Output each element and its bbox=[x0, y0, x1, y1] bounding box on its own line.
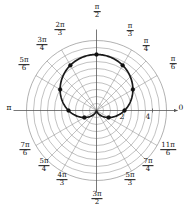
fraction-3pi-over-4: 3π4 bbox=[36, 37, 47, 53]
fraction-denominator: 3 bbox=[54, 31, 65, 38]
fraction-pi-over-6: π6 bbox=[170, 56, 177, 72]
fraction-3pi-over-2: 3π 2 bbox=[91, 191, 102, 207]
fraction-denominator: 6 bbox=[18, 66, 29, 73]
fraction-7pi-over-4: 7π4 bbox=[142, 158, 153, 174]
grid-spoke-150deg bbox=[36, 76, 97, 111]
angle-label-2pi-over-3: 2π3 bbox=[54, 22, 65, 38]
axis-label-pi: π bbox=[7, 104, 12, 112]
angle-label-5pi-over-4: 5π4 bbox=[38, 158, 49, 174]
angle-label-pi-over-6: π6 bbox=[170, 56, 177, 72]
angle-label-7pi-over-4: 7π4 bbox=[142, 158, 153, 174]
fraction-denominator: 4 bbox=[36, 46, 47, 53]
data-point-330deg bbox=[107, 116, 111, 120]
angle-label-pi-over-4: π4 bbox=[143, 38, 150, 54]
fraction-pi-over-2: π 2 bbox=[94, 4, 101, 20]
fraction-denominator: 6 bbox=[160, 151, 176, 158]
fraction-denominator: 3 bbox=[56, 181, 67, 188]
fraction-denominator: 3 bbox=[127, 32, 134, 39]
fraction-denominator: 3 bbox=[124, 181, 135, 188]
fraction-5pi-over-3: 5π3 bbox=[124, 172, 135, 188]
grid-spoke-30deg bbox=[97, 76, 158, 111]
data-point-210deg bbox=[82, 116, 86, 120]
axis-label-0: 0 bbox=[179, 104, 184, 112]
fraction-denominator: 4 bbox=[142, 167, 153, 174]
angle-label-5pi-over-3: 5π3 bbox=[124, 172, 135, 188]
data-point-30deg bbox=[131, 88, 135, 92]
radial-tick-label-2: 2 bbox=[120, 112, 125, 121]
angle-label-pi-over-3: π3 bbox=[127, 23, 134, 39]
angle-label-7pi-over-6: 7π6 bbox=[19, 142, 30, 158]
data-point-60deg bbox=[121, 63, 125, 67]
data-point-150deg bbox=[58, 88, 62, 92]
axis-label-pi-over-2: π 2 bbox=[94, 4, 101, 20]
polar-plot-figure: 0 π π 2 3π 2 π6π4π32π33π45π67π65π44π35π3… bbox=[0, 0, 191, 212]
fraction-5pi-over-4: 5π4 bbox=[38, 158, 49, 174]
fraction-pi-over-3: π3 bbox=[127, 23, 134, 39]
fraction-denominator: 4 bbox=[143, 47, 150, 54]
fraction-2pi-over-3: 2π3 bbox=[54, 22, 65, 38]
fraction-denominator: 6 bbox=[19, 151, 30, 158]
fraction-denominator: 6 bbox=[170, 65, 177, 72]
angle-label-5pi-over-6: 5π6 bbox=[18, 57, 29, 73]
grid-spoke-210deg bbox=[36, 111, 97, 146]
fraction-5pi-over-6: 5π6 bbox=[18, 57, 29, 73]
angle-label-4pi-over-3: 4π3 bbox=[56, 172, 67, 188]
data-point-120deg bbox=[68, 63, 72, 67]
angle-label-3pi-over-4: 3π4 bbox=[36, 37, 47, 53]
grid-spoke-300deg bbox=[97, 111, 132, 172]
data-point-180deg bbox=[67, 109, 71, 113]
radial-tick-label-4: 4 bbox=[146, 112, 151, 121]
axis-label-3pi-over-2: 3π 2 bbox=[91, 191, 102, 207]
angle-label-11pi-over-6: 11π6 bbox=[160, 142, 176, 158]
fraction-denominator: 4 bbox=[38, 167, 49, 174]
fraction-pi-over-4: π4 bbox=[143, 38, 150, 54]
fraction-7pi-over-6: 7π6 bbox=[19, 142, 30, 158]
fraction-4pi-over-3: 4π3 bbox=[56, 172, 67, 188]
grid-spoke-240deg bbox=[62, 111, 97, 172]
data-point-90deg bbox=[95, 53, 99, 57]
polar-grid-svg bbox=[0, 0, 191, 212]
fraction-11pi-over-6: 11π6 bbox=[160, 142, 176, 158]
